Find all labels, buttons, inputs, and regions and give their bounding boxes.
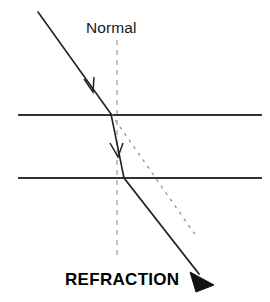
diagram-background: [0, 0, 270, 302]
refraction-diagram-canvas: [0, 0, 270, 302]
refraction-figure: Normal REFRACTION: [0, 0, 270, 302]
